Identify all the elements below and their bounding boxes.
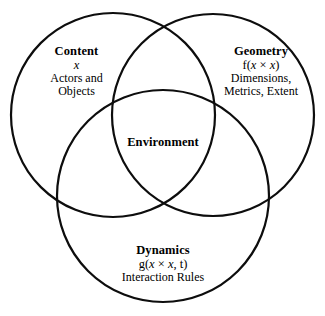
dynamics-formula: g(x × x, t) bbox=[98, 257, 228, 271]
content-label-group: Content x Actors and Objects bbox=[24, 44, 129, 99]
content-title: Content bbox=[24, 44, 129, 58]
geometry-description-line1: Dimensions, bbox=[203, 72, 319, 85]
geometry-label-group: Geometry f(x × x) Dimensions, Metrics, E… bbox=[203, 44, 319, 99]
environment-title: Environment bbox=[102, 135, 224, 149]
content-formula: x bbox=[24, 58, 129, 72]
geometry-title: Geometry bbox=[203, 44, 319, 58]
dynamics-title: Dynamics bbox=[98, 243, 228, 257]
environment-label-group: Environment bbox=[102, 135, 224, 149]
dynamics-description-line1: Interaction Rules bbox=[98, 271, 228, 284]
dynamics-label-group: Dynamics g(x × x, t) Interaction Rules bbox=[98, 243, 228, 284]
geometry-formula: f(x × x) bbox=[203, 58, 319, 72]
geometry-description-line2: Metrics, Extent bbox=[203, 85, 319, 98]
content-description-line1: Actors and bbox=[24, 72, 129, 85]
content-description-line2: Objects bbox=[24, 85, 129, 98]
